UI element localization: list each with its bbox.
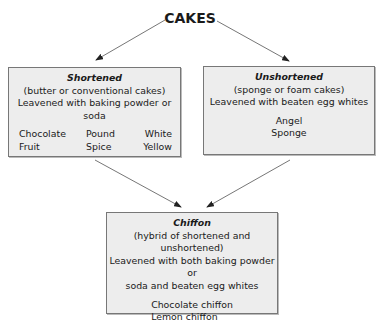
example-item: Fruit (19, 141, 70, 154)
example-item: Chocolate (19, 128, 70, 141)
example-item: Angel (204, 115, 374, 128)
root-node-cakes: CAKES (0, 10, 380, 26)
node-description: Leavened with beaten egg whites (204, 96, 374, 109)
arrow-shortened-to-chiffon (95, 160, 181, 207)
example-item: Lemon chiffon (151, 311, 233, 323)
examples-list: Angel Sponge (204, 115, 374, 140)
arrow-cakes-to-unshortened (217, 21, 289, 61)
node-shortened: Shortened (butter or conventional cakes)… (8, 67, 181, 157)
node-heading: Chiffon (107, 217, 277, 230)
node-unshortened: Unshortened (sponge or foam cakes) Leave… (203, 66, 375, 155)
node-subtitle: (sponge or foam cakes) (204, 84, 374, 97)
example-item: Sponge (204, 127, 374, 140)
arrow-unshortened-to-chiffon (207, 160, 290, 207)
node-description-line1: Leavened with both baking powder or (107, 255, 277, 280)
arrow-cakes-to-shortened (96, 20, 165, 60)
node-subtitle: (hybrid of shortened and unshortened) (107, 230, 277, 255)
example-item: Pound (70, 128, 121, 141)
example-item: Chocolate chiffon (151, 299, 233, 312)
example-item: White (121, 128, 172, 141)
example-item: Spice (70, 141, 121, 154)
examples-list: Chocolate Pound White Fruit Spice Yellow (9, 128, 180, 153)
node-heading: Shortened (9, 72, 180, 85)
node-description-line2: soda and beaten egg whites (107, 280, 277, 293)
node-heading: Unshortened (204, 71, 374, 84)
node-subtitle: (butter or conventional cakes) (9, 85, 180, 98)
node-chiffon: Chiffon (hybrid of shortened and unshort… (106, 212, 278, 314)
examples-list: Chocolate chiffon Lemon chiffon (107, 299, 277, 323)
node-description: Leavened with baking powder or soda (9, 97, 180, 122)
example-item: Yellow (121, 141, 172, 154)
